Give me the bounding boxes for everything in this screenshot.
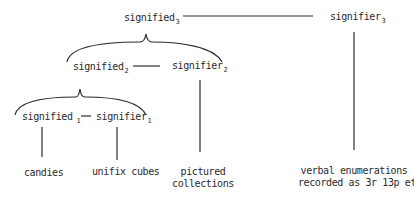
signified-2-subscript: 2 — [125, 67, 129, 75]
signifier-1-subscript: 1 — [148, 117, 152, 125]
signifier-1-label: signifier1 — [96, 111, 151, 127]
signifier-2-subscript: 2 — [224, 66, 228, 74]
signified-3-text: signified — [124, 12, 175, 23]
leaf-candies: candies — [24, 167, 63, 179]
leaf-pictured-collections: pictured collections — [172, 166, 234, 190]
pictured-line-1: pictured — [172, 166, 234, 178]
signified-3-subscript: 3 — [176, 18, 180, 26]
leaf-verbal-enumerations: verbal enumerations recorded as 3r 13p e… — [298, 165, 410, 189]
signifier-3-label: signifier3 — [330, 11, 385, 27]
signifier-3-text: signifier — [330, 11, 381, 22]
pictured-line-2: collections — [172, 178, 234, 190]
signified-1-label: signified1 — [22, 111, 80, 127]
signified-2-label: signified2 — [73, 61, 128, 77]
verbal-line-2: recorded as 3r 13p etc. — [298, 177, 410, 189]
signified-2-text: signified — [73, 61, 124, 72]
signifier-2-text: signifier — [172, 60, 223, 71]
brace-level3 — [67, 34, 222, 62]
signified-1-text: signified — [22, 111, 73, 122]
leaf-unifix-cubes: unifix cubes — [92, 166, 159, 178]
verbal-line-1: verbal enumerations — [298, 165, 410, 177]
signifier-2-label: signifier2 — [172, 60, 227, 76]
signified-1-subscript: 1 — [77, 117, 81, 125]
signifier-3-subscript: 3 — [382, 17, 386, 25]
signified-3-label: signified3 — [124, 12, 179, 28]
signifier-1-text: signifier — [96, 111, 147, 122]
